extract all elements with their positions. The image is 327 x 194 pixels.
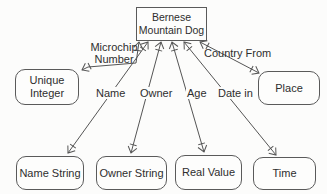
node-real-value: Real Value <box>175 155 242 190</box>
node-label: Integer <box>30 87 64 100</box>
edge-label-owner: Owner <box>139 87 173 99</box>
node-label: Name String <box>19 167 80 180</box>
node-time: Time <box>253 157 316 190</box>
node-label: Place <box>275 82 303 95</box>
node-label: Real Value <box>182 166 235 179</box>
node-name-string: Name String <box>16 156 84 190</box>
central-node-label-line1: Bernese <box>152 11 191 24</box>
node-place: Place <box>258 71 320 105</box>
edge-label-microchip-number: Microchip Number <box>86 41 142 65</box>
edge-label-line: Number <box>86 53 142 65</box>
node-label: Unique <box>30 74 65 87</box>
node-owner-string: Owner String <box>96 156 167 190</box>
edge-label-country-from: Country From <box>204 47 271 59</box>
edge-label-line: Microchip <box>86 41 142 53</box>
node-label: Owner String <box>99 167 163 180</box>
node-unique-integer: Unique Integer <box>15 69 79 105</box>
diagram-canvas: Bernese Mountain Dog Unique Integer Plac… <box>0 0 327 194</box>
node-bernese-mountain-dog: Bernese Mountain Dog <box>136 7 207 41</box>
central-node-label-line2: Mountain Dog <box>139 24 204 37</box>
edge-label-name: Name <box>95 87 126 99</box>
edge-label-age: Age <box>186 87 208 99</box>
node-label: Time <box>272 167 296 180</box>
edge-label-date-in: Date in <box>217 87 254 99</box>
